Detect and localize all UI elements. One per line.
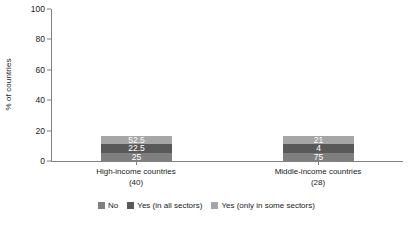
y-tick-mark-100 [47,9,51,10]
bar-middle-income[interactable]: 21 4 75 [283,136,354,162]
x-axis-label-high-income: High-income countries (40) [66,166,206,188]
x-tick-mark-middle-income [318,162,319,165]
bar-segment-no[interactable]: 25 [101,153,172,162]
y-tick-mark-80 [47,39,51,40]
legend-label: No [108,201,118,210]
y-axis-title: % of countries [0,0,16,168]
category-name: Middle-income countries [275,167,362,176]
bar-segment-label: 75 [314,153,323,162]
y-tick-mark-40 [47,100,51,101]
y-axis-title-text: % of countries [4,58,13,110]
legend-item-yes-some-sectors[interactable]: Yes (only in some sectors) [211,201,315,210]
category-name: High-income countries [96,167,176,176]
y-tick-mark-60 [47,69,51,70]
chart-legend: No Yes (in all sectors) Yes (only in som… [0,201,413,210]
legend-item-yes-all-sectors[interactable]: Yes (in all sectors) [127,201,202,210]
bar-segment-label: 25 [132,153,141,162]
legend-swatch-icon [127,202,134,209]
plot-area: 100 80 60 40 20 0 52.5 22.5 25 21 [51,9,403,161]
x-tick-mark-high-income [136,162,137,165]
y-tick-mark-0 [47,161,51,162]
legend-item-no[interactable]: No [98,201,118,210]
x-axis-line [51,161,403,162]
category-count: (40) [66,177,206,188]
y-tick-mark-20 [47,130,51,131]
chart-figure: % of countries 100 80 60 40 20 0 52.5 22… [0,0,413,225]
legend-swatch-icon [98,202,105,209]
legend-label: Yes (in all sectors) [137,201,202,210]
legend-swatch-icon [211,202,218,209]
bar-high-income[interactable]: 52.5 22.5 25 [101,136,172,162]
x-axis-label-middle-income: Middle-income countries (28) [248,166,388,188]
legend-label: Yes (only in some sectors) [221,201,315,210]
category-count: (28) [248,177,388,188]
bar-segment-no[interactable]: 75 [283,153,354,162]
